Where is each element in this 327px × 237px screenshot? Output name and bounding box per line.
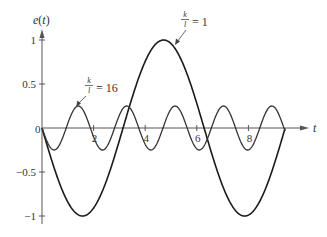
svg-text:= 1: = 1	[192, 15, 208, 29]
y-axis-arrow-icon	[40, 29, 45, 38]
y-tick-label: 1	[31, 34, 37, 46]
x-axis-arrow-icon	[300, 126, 309, 131]
x-tick-label: 8	[247, 132, 253, 144]
y-axis-label: e(t)	[33, 13, 50, 27]
x-tick-label: 6	[195, 132, 201, 144]
svg-text:k: k	[87, 76, 91, 85]
x-axis-label: t	[313, 121, 317, 135]
line-chart: 2468010.5−0.5−1 e(t) t k l = 1 k l = 16	[0, 0, 327, 237]
y-tick-label: 0.5	[22, 78, 36, 90]
y-tick-label: −0.5	[16, 166, 36, 178]
svg-text:k: k	[183, 10, 187, 19]
annotation-k-over-l-16: k l = 16	[76, 76, 118, 107]
svg-text:l: l	[184, 20, 187, 29]
annotation-k-over-l-1: k l = 1	[175, 10, 208, 45]
y-tick-label: −1	[24, 210, 36, 222]
origin-label: 0	[35, 123, 41, 135]
svg-text:l: l	[88, 86, 91, 95]
svg-text:= 16: = 16	[96, 81, 118, 95]
